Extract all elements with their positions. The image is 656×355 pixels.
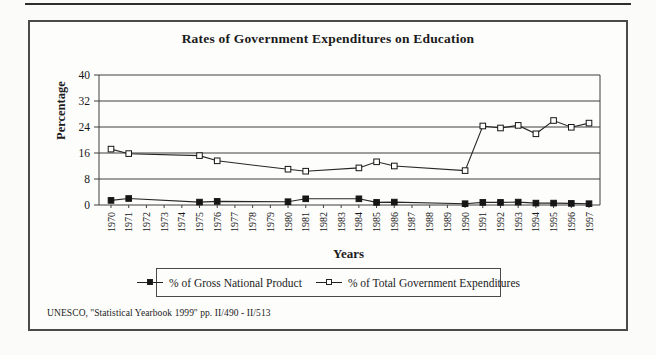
svg-text:16: 16 xyxy=(79,147,91,159)
y-tick-labels: 0816243240 xyxy=(79,69,91,211)
svg-text:1995: 1995 xyxy=(548,212,559,232)
svg-text:1970: 1970 xyxy=(106,212,117,232)
svg-text:1984: 1984 xyxy=(353,212,364,232)
legend-item-gnp: % of Gross National Product xyxy=(137,277,302,289)
svg-text:1975: 1975 xyxy=(194,212,205,232)
legend: % of Gross National Product % of Total G… xyxy=(156,268,501,297)
svg-text:1977: 1977 xyxy=(229,212,240,232)
plot-area: 0816243240197019711972197319741975197619… xyxy=(30,22,630,246)
x-tick-labels: 1970197119721973197419751976197719781979… xyxy=(106,212,595,232)
svg-text:32: 32 xyxy=(79,95,91,107)
svg-text:1973: 1973 xyxy=(159,212,170,232)
svg-text:1983: 1983 xyxy=(336,212,347,232)
svg-text:1988: 1988 xyxy=(424,212,435,232)
legend-item-total-gov: % of Total Government Expenditures xyxy=(316,277,520,289)
svg-text:0: 0 xyxy=(84,199,90,211)
svg-text:1993: 1993 xyxy=(513,212,524,232)
legend-label-gnp: % of Gross National Product xyxy=(169,277,302,289)
filled-square-marker-icon xyxy=(137,279,163,286)
svg-text:40: 40 xyxy=(79,69,91,81)
svg-text:1971: 1971 xyxy=(123,212,134,232)
svg-text:1976: 1976 xyxy=(212,212,223,232)
svg-text:8: 8 xyxy=(84,173,90,185)
svg-text:1991: 1991 xyxy=(477,212,488,232)
svg-text:1981: 1981 xyxy=(300,212,311,232)
legend-label-total-gov: % of Total Government Expenditures xyxy=(348,277,520,289)
svg-text:1978: 1978 xyxy=(247,212,258,232)
svg-text:1989: 1989 xyxy=(442,212,453,232)
svg-text:24: 24 xyxy=(79,121,91,133)
svg-text:1985: 1985 xyxy=(371,212,382,232)
svg-text:1974: 1974 xyxy=(176,212,187,232)
series-open-square xyxy=(108,118,592,174)
svg-text:1992: 1992 xyxy=(495,212,506,232)
x-axis-label: Years xyxy=(97,246,600,262)
svg-text:1986: 1986 xyxy=(389,212,400,232)
svg-text:1987: 1987 xyxy=(406,212,417,232)
svg-text:1980: 1980 xyxy=(283,212,294,232)
svg-text:1997: 1997 xyxy=(584,212,595,232)
svg-text:1972: 1972 xyxy=(141,212,152,232)
svg-text:1982: 1982 xyxy=(318,212,329,232)
open-square-marker-icon xyxy=(316,279,342,286)
axis-ticks xyxy=(94,75,589,208)
svg-text:1994: 1994 xyxy=(530,212,541,232)
page-top-rule xyxy=(25,3,631,5)
chart-frame: Rates of Government Expenditures on Educ… xyxy=(28,20,628,331)
svg-text:1996: 1996 xyxy=(566,212,577,232)
svg-text:1990: 1990 xyxy=(460,212,471,232)
gridlines xyxy=(99,75,600,205)
source-note: UNESCO, ''Statistical Yearbook 1999'' pp… xyxy=(47,308,271,318)
svg-text:1979: 1979 xyxy=(265,212,276,232)
